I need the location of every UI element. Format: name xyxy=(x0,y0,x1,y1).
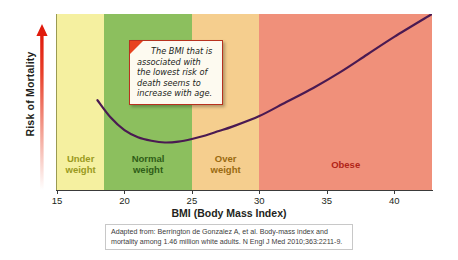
citation-text: Adapted from: Berrington de Gonzalez A, … xyxy=(111,228,347,247)
page-fold-icon xyxy=(130,41,143,54)
x-tick xyxy=(327,190,328,194)
chart-figure: Risk of Mortality Under weight Norma xyxy=(0,0,458,260)
x-tick xyxy=(192,190,193,194)
band-label-underweight: Under weight xyxy=(57,153,104,175)
risk-direction-arrow-icon xyxy=(36,24,48,190)
band-label-obese: Obese xyxy=(259,159,432,170)
x-tick xyxy=(259,190,260,194)
x-tick-label: 30 xyxy=(244,195,274,206)
band-label-normal: Normal weight xyxy=(104,153,192,175)
bmi-callout: The BMI that is associated with the lowe… xyxy=(129,40,223,105)
x-axis-title: BMI (Body Mass Index) xyxy=(0,207,458,219)
plot-area: Under weight Normal weight Over weight O… xyxy=(57,14,432,190)
x-tick-label: 15 xyxy=(42,195,72,206)
x-tick xyxy=(124,190,125,194)
x-tick xyxy=(394,190,395,194)
y-axis-label: Risk of Mortality xyxy=(24,24,36,164)
x-axis-line xyxy=(56,190,433,191)
x-tick-label: 20 xyxy=(109,195,139,206)
x-tick-label: 35 xyxy=(312,195,342,206)
x-tick-label: 40 xyxy=(379,195,409,206)
x-tick-label: 25 xyxy=(177,195,207,206)
band-label-overweight: Over weight xyxy=(192,153,259,175)
citation-box: Adapted from: Berrington de Gonzalez A, … xyxy=(105,224,353,250)
y-axis-line xyxy=(56,14,57,191)
bmi-callout-text: The BMI that is associated with the lowe… xyxy=(137,46,216,99)
x-tick xyxy=(57,190,58,194)
